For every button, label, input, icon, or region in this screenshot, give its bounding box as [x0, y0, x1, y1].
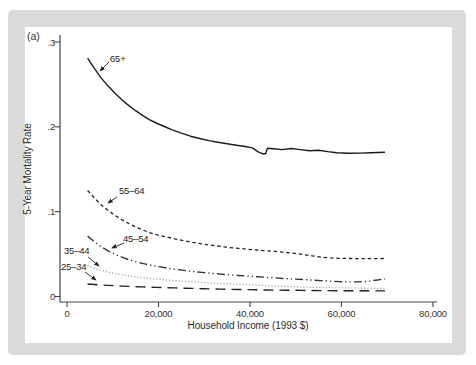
- x-axis-title: Household Income (1993 $): [163, 320, 333, 331]
- series-label-25-34: 25–34: [61, 261, 86, 272]
- label-arrow-35-44: [88, 257, 99, 266]
- x-tick-label-2: 40,000: [222, 308, 278, 319]
- y-tick-label-2: .1: [29, 206, 55, 217]
- axes: [55, 35, 438, 307]
- series-line-25-34: [88, 284, 385, 291]
- x-tick-label-1: 20,000: [131, 308, 187, 319]
- x-tick-label-0: 0: [39, 308, 95, 319]
- x-tick-label-4: 80,000: [405, 308, 461, 319]
- label-arrow-65plus: [100, 62, 109, 71]
- y-tick-label-0: .3: [29, 37, 55, 48]
- series-label-45-54: 45–54: [123, 233, 148, 244]
- label-arrow-25-34: [85, 272, 96, 280]
- y-tick-label-1: .2: [29, 121, 55, 132]
- series-line-55-64: [88, 191, 385, 259]
- y-axis-title: 5-Year Mortality Rate: [22, 123, 33, 214]
- series-lines: [88, 58, 385, 291]
- label-arrow-55-64: [108, 197, 117, 203]
- series-line-35-44: [88, 266, 385, 289]
- series-line-65plus: [88, 58, 385, 154]
- annotation-arrows: [85, 62, 124, 280]
- x-tick-label-3: 60,000: [314, 308, 370, 319]
- series-label-35-44: 35–44: [64, 245, 89, 256]
- figure: (a) 5-Year Mortality Rate Household Inco…: [0, 0, 476, 365]
- series-label-65plus: 65+: [110, 53, 126, 64]
- y-tick-label-3: 0: [29, 291, 55, 302]
- series-label-55-64: 55–64: [119, 185, 144, 196]
